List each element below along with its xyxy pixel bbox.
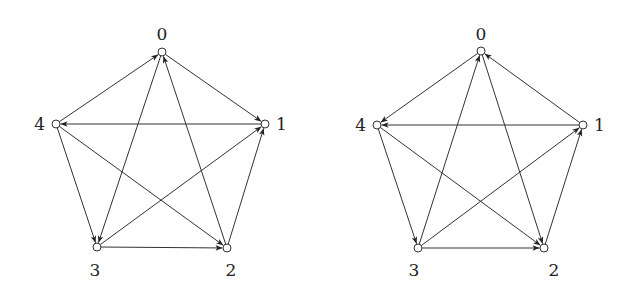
edge-4-to-3 [57,128,95,243]
edge-4-to-3 [378,129,416,244]
edge-3-to-1 [100,127,261,245]
vertex-3 [93,243,101,251]
vertex-label: 0 [476,24,487,44]
vertex-2 [223,244,231,252]
vertex-4 [52,120,60,128]
vertex-label: 2 [226,260,237,280]
vertex-label: 0 [157,24,168,44]
vertex-label: 1 [276,114,287,134]
edge-3-to-0 [419,55,479,244]
edge-0-to-2 [482,55,542,244]
edge-3-to-1 [421,128,579,246]
vertex-label: 3 [409,260,420,280]
vertex-1 [261,120,269,128]
edge-1-to-0 [485,54,580,123]
diagram-canvas: 01234 01234 [0,0,638,301]
vertex-4 [373,121,381,129]
edge-2-to-1 [545,129,581,244]
vertex-label: 4 [355,115,366,135]
vertex-3 [414,244,422,252]
edge-3-to-2 [101,247,223,248]
vertex-1 [579,121,587,129]
edge-0-to-4 [381,53,478,122]
edge-4-to-2 [380,127,540,245]
edge-0-to-1 [165,54,261,121]
tournament-graph-left: 01234 [34,24,287,280]
edge-2-to-1 [228,128,264,244]
vertex-label: 3 [90,260,101,280]
vertex-label: 1 [594,115,605,135]
edge-4-to-2 [59,126,223,245]
vertex-2 [540,244,548,252]
vertex-0 [477,47,485,55]
edge-0-to-3 [98,56,160,243]
vertex-label: 2 [549,260,560,280]
edge-4-to-0 [59,55,158,122]
tournament-graph-right: 01234 [355,24,605,280]
vertex-0 [158,48,166,56]
edge-2-to-0 [163,56,225,244]
vertex-label: 4 [34,114,45,134]
